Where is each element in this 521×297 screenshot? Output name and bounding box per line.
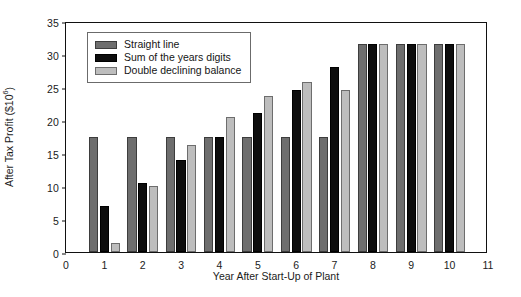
x-axis-label: Year After Start-Up of Plant	[213, 270, 339, 282]
x-tick-label: 7	[332, 252, 338, 271]
x-tick-label: 0	[63, 252, 69, 271]
bar	[138, 183, 147, 252]
legend-item-straight-line: Straight line	[95, 38, 241, 51]
chart-legend: Straight line Sum of the years digits Do…	[87, 32, 251, 83]
x-tick-label: 9	[408, 252, 414, 271]
y-tick-mark	[62, 23, 67, 24]
y-axis-label-text: After Tax Profit ($10	[3, 95, 15, 188]
bar	[111, 243, 120, 252]
bar	[149, 186, 158, 252]
bar	[434, 44, 443, 252]
bar	[127, 137, 136, 253]
bar	[242, 137, 251, 253]
legend-item-double-declining-balance: Double declining balance	[95, 64, 241, 77]
x-tick-label: 3	[178, 252, 184, 271]
bar	[417, 44, 426, 252]
bar	[204, 137, 213, 253]
x-tick-label: 8	[370, 252, 376, 271]
x-tick-label: 10	[444, 252, 456, 271]
bar	[319, 137, 328, 253]
legend-item-sum-of-years-digits: Sum of the years digits	[95, 51, 241, 64]
bar	[166, 137, 175, 253]
y-tick-mark	[62, 56, 67, 57]
legend-swatch-double-declining-balance	[95, 67, 117, 75]
bar	[226, 117, 235, 252]
bar	[292, 90, 301, 252]
bar	[368, 44, 377, 252]
y-tick-mark	[62, 89, 67, 90]
y-tick-mark	[62, 122, 67, 123]
bar	[281, 137, 290, 253]
legend-label-double-declining-balance: Double declining balance	[124, 64, 241, 77]
y-axis-label-close: )	[3, 87, 15, 91]
y-tick-mark	[62, 221, 67, 222]
bar	[215, 137, 224, 253]
legend-swatch-sum-of-years-digits	[95, 54, 117, 62]
bar	[358, 44, 367, 252]
x-tick-label: 5	[255, 252, 261, 271]
bar	[396, 44, 405, 252]
x-tick-label: 6	[293, 252, 299, 271]
x-tick-label: 2	[140, 252, 146, 271]
y-axis-label-exponent: 6	[1, 90, 10, 94]
bar	[456, 44, 465, 252]
bar	[264, 96, 273, 252]
plot-area: 05101520253035 01234567891011 Straight l…	[65, 22, 487, 253]
bar	[176, 160, 185, 252]
bar	[89, 137, 98, 253]
bar	[330, 67, 339, 252]
bar	[445, 44, 454, 252]
legend-label-straight-line: Straight line	[124, 38, 179, 51]
chart-figure: After Tax Profit ($106) Year After Start…	[0, 0, 521, 297]
x-tick-label: 1	[101, 252, 107, 271]
bar	[253, 113, 262, 252]
bar	[187, 145, 196, 252]
legend-label-sum-of-years-digits: Sum of the years digits	[124, 51, 231, 64]
x-tick-label: 11	[483, 252, 494, 271]
x-tick-label: 4	[217, 252, 223, 271]
bar	[302, 82, 311, 252]
y-tick-mark	[62, 155, 67, 156]
legend-swatch-straight-line	[95, 41, 117, 49]
y-tick-mark	[62, 188, 67, 189]
bar	[100, 206, 109, 252]
bar	[341, 90, 350, 252]
y-axis-label: After Tax Profit ($106)	[1, 87, 15, 187]
bar	[407, 44, 416, 252]
bar	[379, 44, 388, 252]
